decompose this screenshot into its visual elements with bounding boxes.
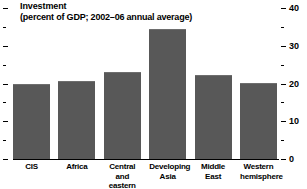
y-tick-major-40 — [281, 8, 286, 9]
y-tick-left-5 — [3, 140, 6, 141]
y-tick-minor-15 — [281, 102, 284, 103]
y-tick-left-30 — [3, 46, 8, 47]
y-tick-major-20 — [281, 84, 286, 85]
bar-series — [13, 8, 277, 159]
bar-developing-asia — [149, 29, 186, 159]
y-tick-minor-35 — [281, 27, 284, 28]
cat-label-africa: Africa — [58, 162, 95, 189]
y-tick-minor-25 — [281, 65, 284, 66]
bar-middle-east — [195, 75, 232, 159]
plot-area — [13, 8, 277, 159]
y-tick-label-40: 40 — [289, 4, 299, 13]
y-tick-major-30 — [281, 46, 286, 47]
bar-central-and-eastern-europe — [104, 72, 141, 159]
y-tick-label-20: 20 — [289, 80, 299, 89]
y-tick-left-35 — [3, 27, 6, 28]
y-tick-left-15 — [3, 102, 6, 103]
y-tick-left-0 — [3, 159, 8, 160]
cat-label-developing-asia: DevelopingAsia — [149, 162, 186, 189]
y-tick-label-30: 30 — [289, 42, 299, 51]
y-tick-left-40 — [3, 8, 8, 9]
y-tick-label-10: 10 — [289, 117, 299, 126]
x-axis-baseline — [13, 159, 279, 160]
x-axis-category-labels: CIS Africa Central andeastern Europe Dev… — [13, 162, 277, 189]
y-tick-left-10 — [3, 121, 8, 122]
y-tick-label-0: 0 — [289, 155, 294, 164]
bar-western-hemisphere — [240, 83, 277, 159]
bar-africa — [58, 81, 95, 159]
y-tick-major-10 — [281, 121, 286, 122]
cat-label-central-and-eastern-europe: Central andeastern Europe — [104, 162, 141, 189]
cat-label-middle-east: MiddleEast — [195, 162, 232, 189]
y-tick-left-25 — [3, 65, 6, 66]
investment-bar-chart: Investment (percent of GDP; 2002–06 annu… — [0, 0, 307, 189]
cat-label-western-hemisphere: Westernhemisphere — [240, 162, 277, 189]
bar-cis — [13, 84, 50, 160]
y-tick-left-20 — [3, 84, 8, 85]
cat-label-cis: CIS — [13, 162, 50, 189]
y-tick-major-0 — [281, 159, 286, 160]
y-tick-minor-5 — [281, 140, 284, 141]
